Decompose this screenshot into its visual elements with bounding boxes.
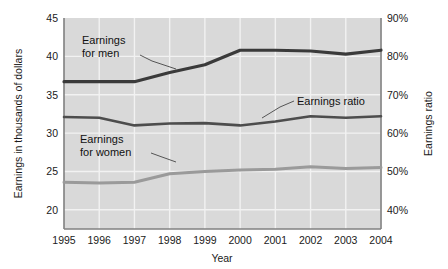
x-tick-label-2003: 2003 bbox=[334, 234, 358, 246]
annotation-men-line1: Earnings bbox=[82, 34, 126, 46]
left-axis-tick-labels: 454035302520 bbox=[46, 12, 58, 216]
right-axis-title: Earnings ratio bbox=[422, 91, 434, 156]
x-tick-label-2001: 2001 bbox=[264, 234, 288, 246]
x-axis-tick-labels: 1995199619971998199920002001200220032004 bbox=[52, 234, 393, 246]
x-tick-label-2000: 2000 bbox=[228, 234, 252, 246]
x-tick-label-2004: 2004 bbox=[369, 234, 393, 246]
x-tick-label-2002: 2002 bbox=[299, 234, 323, 246]
right-axis-tick-labels: 90%80%70%60%50%40% bbox=[387, 12, 408, 216]
left-tick-label-35: 35 bbox=[46, 89, 58, 101]
annotation-men-line2: for men bbox=[82, 47, 119, 59]
left-tick-label-20: 20 bbox=[46, 204, 58, 216]
x-tick-label-1995: 1995 bbox=[52, 234, 76, 246]
right-tick-label-90pct: 90% bbox=[387, 12, 408, 24]
chart-container: 454035302520 90%80%70%60%50%40% 19951996… bbox=[0, 0, 448, 269]
left-tick-label-25: 25 bbox=[46, 165, 58, 177]
right-tick-label-40pct: 40% bbox=[387, 204, 408, 216]
left-tick-label-30: 30 bbox=[46, 127, 58, 139]
annotation-ratio-line1: Earnings ratio bbox=[297, 95, 365, 107]
left-axis-title: Earnings in thousands of dollars bbox=[12, 49, 24, 198]
x-tick-label-1998: 1998 bbox=[158, 234, 182, 246]
x-axis-title: Year bbox=[211, 252, 233, 264]
x-tick-label-1997: 1997 bbox=[123, 234, 147, 246]
left-tick-label-40: 40 bbox=[46, 50, 58, 62]
annotation-women-line2: for women bbox=[80, 146, 131, 158]
right-tick-label-60pct: 60% bbox=[387, 127, 408, 139]
annotation-women-line1: Earnings bbox=[80, 133, 124, 145]
left-tick-label-45: 45 bbox=[46, 12, 58, 24]
right-tick-label-80pct: 80% bbox=[387, 50, 408, 62]
x-tick-label-1999: 1999 bbox=[193, 234, 217, 246]
line-chart: 454035302520 90%80%70%60%50%40% 19951996… bbox=[0, 0, 448, 269]
x-tick-label-1996: 1996 bbox=[88, 234, 112, 246]
right-tick-label-70pct: 70% bbox=[387, 89, 408, 101]
right-tick-label-50pct: 50% bbox=[387, 165, 408, 177]
